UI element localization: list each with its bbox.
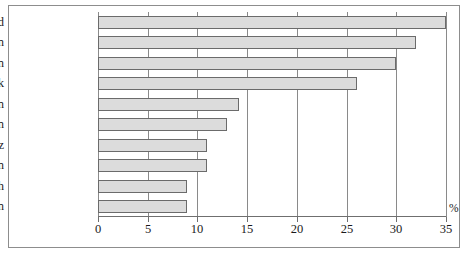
bar <box>98 16 446 29</box>
tick-label-15: 15 <box>227 222 267 237</box>
category-label-slot: Großbritannien <box>0 118 4 131</box>
category-label-slot: Zypern <box>0 159 4 172</box>
category-label-slot: Spanien <box>0 200 4 213</box>
category-label: Schweden <box>0 57 4 70</box>
bar-row <box>98 139 446 152</box>
bar <box>98 159 207 172</box>
bar-row <box>98 36 446 49</box>
bar <box>98 118 227 131</box>
category-label: Dänemark <box>0 77 4 90</box>
bar-row <box>98 16 446 29</box>
category-label: Großbritannien <box>0 118 4 131</box>
gridline-35 <box>446 12 447 217</box>
category-label: Spanien <box>0 200 4 213</box>
category-label-slot: Italien <box>0 98 4 111</box>
bar <box>98 180 187 193</box>
category-label: Schweiz <box>0 139 4 152</box>
category-label: Italien <box>0 98 4 111</box>
bar <box>98 98 239 111</box>
bar <box>98 139 207 152</box>
chart-figure: FinnlandNorwegenSchwedenDänemarkItalienG… <box>8 5 460 248</box>
category-label-slot: Österreich <box>0 180 4 193</box>
bar-row <box>98 57 446 70</box>
bar <box>98 57 396 70</box>
bar-series <box>98 12 446 217</box>
bar-row <box>98 118 446 131</box>
tick-label-35: 35 <box>426 222 466 237</box>
bar-row <box>98 200 446 213</box>
category-label: Norwegen <box>0 36 4 49</box>
bar-row <box>98 77 446 90</box>
bar-row <box>98 180 446 193</box>
tick-label-20: 20 <box>277 222 317 237</box>
tick-label-10: 10 <box>177 222 217 237</box>
category-label-slot: Dänemark <box>0 77 4 90</box>
category-label-slot: Schweiz <box>0 139 4 152</box>
category-axis-labels: FinnlandNorwegenSchwedenDänemarkItalienG… <box>0 12 4 217</box>
bar-row <box>98 159 446 172</box>
bar <box>98 77 357 90</box>
category-label-slot: Schweden <box>0 57 4 70</box>
category-label: Finnland <box>0 16 4 29</box>
category-label: Zypern <box>0 159 4 172</box>
plot-area <box>98 12 446 217</box>
bar <box>98 200 187 213</box>
x-axis-ticks: 05101520253035 <box>98 217 446 243</box>
tick-label-25: 25 <box>327 222 367 237</box>
tick-label-0: 0 <box>78 222 118 237</box>
category-label-slot: Norwegen <box>0 36 4 49</box>
bar <box>98 36 416 49</box>
category-label-slot: Finnland <box>0 16 4 29</box>
x-axis-unit-label: % <box>449 202 459 214</box>
category-label: Österreich <box>0 180 4 193</box>
bar-row <box>98 98 446 111</box>
tick-label-5: 5 <box>128 222 168 237</box>
tick-label-30: 30 <box>376 222 416 237</box>
